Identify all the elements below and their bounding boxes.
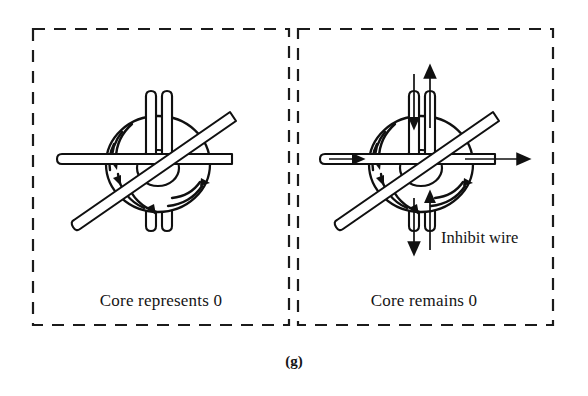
left-core-assembly <box>57 91 236 231</box>
right-panel-caption: Core remains 0 <box>371 291 478 310</box>
left-panel-caption: Core represents 0 <box>100 291 222 310</box>
inhibit-wire-label: Inhibit wire <box>441 228 518 247</box>
right-panel: Inhibit wire Core remains 0 <box>298 29 553 325</box>
figure-caption: (g) <box>285 353 303 370</box>
right-core-assembly <box>320 66 529 254</box>
left-panel: Core represents 0 <box>33 29 289 325</box>
figure-core-memory-inhibit: Core represents 0 Inhibit wire Core rem <box>0 0 588 396</box>
